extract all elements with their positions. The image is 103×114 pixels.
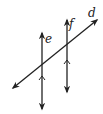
line-d: [13, 20, 97, 88]
label-e: e: [45, 32, 52, 46]
label-f: f: [68, 17, 76, 31]
label-d: d: [88, 6, 96, 20]
parallel-lines-diagram: e f d: [0, 0, 103, 114]
